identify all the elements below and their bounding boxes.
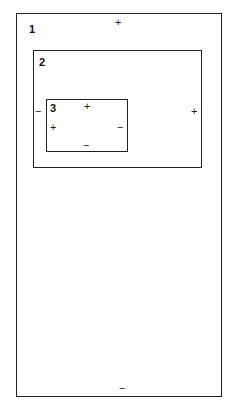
region-1-bottom-sign: −	[119, 383, 125, 394]
region-3-top-sign: +	[84, 101, 90, 112]
region-1-label: 1	[29, 24, 35, 35]
region-3-right-sign: −	[117, 122, 123, 133]
region-3-left-sign: +	[50, 122, 56, 133]
region-1-top-sign: +	[115, 17, 121, 28]
region-2-right-sign: +	[191, 106, 197, 117]
region-3-label: 3	[50, 103, 56, 114]
region-2-label: 2	[39, 57, 45, 68]
region-2-left-sign: −	[35, 106, 41, 117]
region-3-bottom-sign: −	[83, 140, 89, 151]
